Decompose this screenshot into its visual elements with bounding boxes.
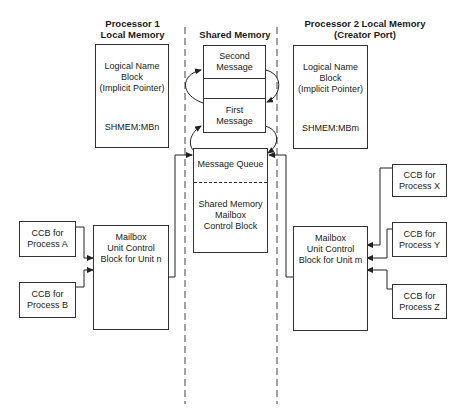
ccb-x-label: CCB for Process X <box>393 170 446 192</box>
ccb-z-line1: CCB for <box>393 291 446 302</box>
p1-line3: (Implicit Pointer) <box>96 83 168 94</box>
processor2-header: Processor 2 Local Memory (Creator Port) <box>275 18 455 40</box>
ccb-a-label: CCB for Process A <box>20 228 75 250</box>
processor1-header: Processor 1 Local Memory <box>85 18 180 40</box>
ccb-b-line2: Process B <box>20 300 75 311</box>
first-message-box: First Message <box>203 98 266 133</box>
p1-line1: Logical Name <box>96 61 168 72</box>
queue-arrow-left-top <box>185 70 203 103</box>
ccb-process-x: CCB for Process X <box>392 164 447 197</box>
processor2-block-name: SHMEM:MBm <box>294 123 367 134</box>
ccb-z-label: CCB for Process Z <box>393 291 446 313</box>
processor2-logical-name-block: Logical Name Block (Implicit Pointer) SH… <box>293 45 368 149</box>
processor1-block-label: Logical Name Block (Implicit Pointer) <box>96 61 168 94</box>
processor1-header-line1: Processor 1 <box>85 18 180 29</box>
second-message-box: Second Message <box>203 45 266 79</box>
p2-line1: Logical Name <box>294 62 367 73</box>
ccb-x-line2: Process X <box>393 181 446 192</box>
ccb-b-label: CCB for Process B <box>20 289 75 311</box>
mailbox-n-line3: Block for Unit n <box>94 254 168 265</box>
mailbox-n-label: Mailbox Unit Control Block for Unit n <box>94 232 168 265</box>
p2-line2: Block <box>294 73 367 84</box>
processor2-header-line1: Processor 2 Local Memory <box>275 18 455 29</box>
ccb-a-line1: CCB for <box>20 228 75 239</box>
ccb-y-line1: CCB for <box>393 229 446 240</box>
shared-mailbox-label: Shared Memory Mailbox Control Block <box>194 199 267 232</box>
ccb-process-z: CCB for Process Z <box>392 284 447 319</box>
ccb-process-y: CCB for Process Y <box>392 222 447 257</box>
ccb-y-label: CCB for Process Y <box>393 229 446 251</box>
ccb-a-line2: Process A <box>20 239 75 250</box>
processor2-block-label: Logical Name Block (Implicit Pointer) <box>294 62 367 95</box>
processor1-block-name: SHMEM:MBn <box>96 122 168 133</box>
mailbox-n-line1: Mailbox <box>94 232 168 243</box>
p2-line3: (Implicit Pointer) <box>294 84 367 95</box>
ccb-b-line1: CCB for <box>20 289 75 300</box>
p1-line2: Block <box>96 72 168 83</box>
second-message-label: Second Message <box>204 51 265 73</box>
mailbox-m-line3: Block for Unit m <box>294 255 367 266</box>
second-message-link-field <box>203 78 266 99</box>
ccb-x-line1: CCB for <box>393 170 446 181</box>
first-message-line1: First <box>204 105 265 116</box>
mailbox-n-line2: Unit Control <box>94 243 168 254</box>
first-message-label: First Message <box>204 105 265 127</box>
mailbox-m-label: Mailbox Unit Control Block for Unit m <box>294 233 367 266</box>
mailbox-ucb-unit-n: Mailbox Unit Control Block for Unit n <box>93 225 169 330</box>
mailbox-ucb-unit-m: Mailbox Unit Control Block for Unit m <box>293 226 368 331</box>
processor1-header-line2: Local Memory <box>85 29 180 40</box>
ccb-process-a: CCB for Process A <box>19 221 76 257</box>
ccb-y-line2: Process Y <box>393 240 446 251</box>
processor2-header-line2: (Creator Port) <box>275 29 455 40</box>
shared-memory-header: Shared Memory <box>195 29 275 40</box>
message-queue-divider <box>194 182 267 183</box>
ccb-z-line2: Process Z <box>393 302 446 313</box>
shared-mailbox-line3: Control Block <box>194 221 267 232</box>
mailbox-m-line1: Mailbox <box>294 233 367 244</box>
message-queue-label: Message Queue <box>194 159 267 170</box>
first-message-line2: Message <box>204 116 265 127</box>
ccb-process-b: CCB for Process B <box>19 282 76 318</box>
processor1-logical-name-block: Logical Name Block (Implicit Pointer) SH… <box>95 44 169 148</box>
second-message-line2: Message <box>204 62 265 73</box>
shared-mailbox-line1: Shared Memory <box>194 199 267 210</box>
second-message-line1: Second <box>204 51 265 62</box>
mailbox-m-line2: Unit Control <box>294 244 367 255</box>
shared-mailbox-line2: Mailbox <box>194 210 267 221</box>
shared-memory-mailbox-control-block: Message Queue Shared Memory Mailbox Cont… <box>193 148 268 253</box>
